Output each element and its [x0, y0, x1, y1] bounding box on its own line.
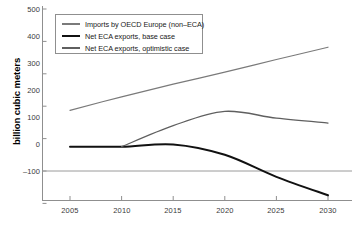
legend-item-base-case: Net ECA exports, base case: [60, 30, 198, 42]
legend-item-imports: Imports by OECD Europe (non–ECA): [60, 18, 198, 30]
legend-item-optimistic-case: Net ECA exports, optimistic case: [60, 42, 198, 54]
legend-swatch-imports: [62, 23, 80, 24]
data-series: [70, 47, 328, 195]
legend-label: Net ECA exports, base case: [85, 32, 175, 41]
series-line-2: [122, 111, 328, 146]
legend-swatch-optimistic-case: [62, 47, 80, 48]
legend-swatch-base-case: [62, 35, 80, 37]
y-tick-marks: [43, 9, 47, 203]
series-line-0: [70, 47, 328, 110]
x-tick-marks: [70, 196, 328, 201]
series-line-1: [70, 144, 328, 195]
legend-label: Imports by OECD Europe (non–ECA): [85, 20, 204, 29]
legend: Imports by OECD Europe (non–ECA) Net ECA…: [55, 14, 203, 54]
legend-label: Net ECA exports, optimistic case: [85, 44, 189, 53]
line-chart: billion cubic meters 500 400 300 200 100…: [0, 0, 358, 230]
